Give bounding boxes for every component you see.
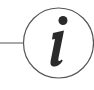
info-icon [0, 0, 94, 90]
info-callout [0, 0, 94, 90]
info-dot [59, 16, 68, 25]
